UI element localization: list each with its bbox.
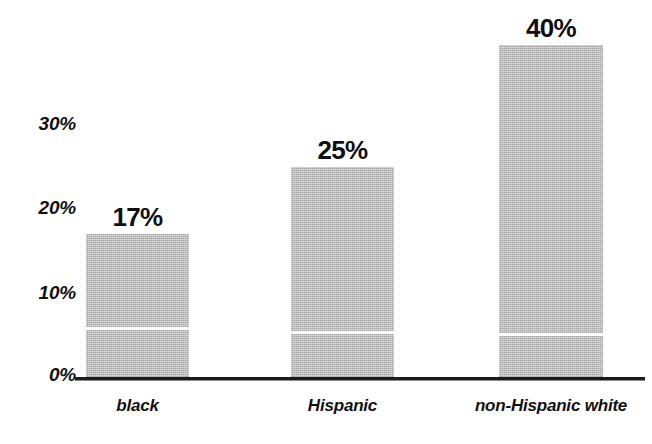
y-axis-tick-label-10: 10% (39, 283, 76, 302)
bar-split-line-black (86, 327, 189, 330)
x-axis-label-hispanic: Hispanic (281, 397, 404, 414)
bar-hispanic (291, 167, 394, 378)
x-axis-label-non-hispanic-white: non-Hispanic white (466, 397, 636, 414)
y-axis-tick-label-0: 0% (49, 365, 76, 384)
y-axis-tick-label-30: 30% (39, 114, 76, 133)
bar-non-hispanic-white (499, 45, 603, 378)
y-axis-tick-label-20: 20% (39, 198, 76, 217)
x-axis-label-black: black (76, 397, 199, 414)
bar-black (86, 234, 189, 378)
plot-area: 30% 20% 10% 0% 17% 25% 40% black Hispani… (0, 0, 652, 444)
bar-value-label-non-hispanic-white: 40% (499, 15, 603, 41)
bar-split-line-non-hispanic-white (499, 333, 603, 336)
bar-value-label-black: 17% (86, 204, 189, 230)
bar-value-label-hispanic: 25% (291, 137, 394, 163)
bar-chart: 30% 20% 10% 0% 17% 25% 40% black Hispani… (0, 0, 652, 444)
x-axis-line (75, 377, 645, 380)
bar-split-line-hispanic (291, 331, 394, 334)
